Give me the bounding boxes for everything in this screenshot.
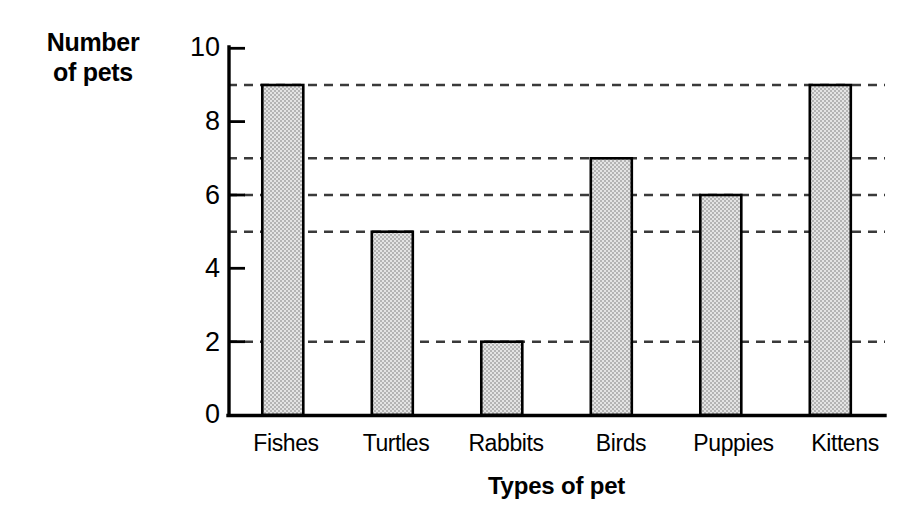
- y-tick-label-0: 0: [172, 401, 220, 428]
- x-category-label-puppies: Puppies: [676, 432, 791, 455]
- x-axis-title: Types of pet: [228, 472, 885, 500]
- bar-birds: [591, 158, 632, 415]
- chart-page: Number of pets: [0, 0, 909, 524]
- y-axis-ticks: [229, 48, 245, 341]
- x-category-label-rabbits: Rabbits: [451, 432, 561, 455]
- x-category-label-kittens: Kittens: [790, 432, 900, 455]
- y-tick-label-8: 8: [172, 108, 220, 135]
- y-tick-label-2: 2: [172, 329, 220, 356]
- y-tick-label-4: 4: [172, 255, 220, 282]
- x-category-label-turtles: Turtles: [341, 432, 451, 455]
- x-category-label-fishes: Fishes: [231, 432, 341, 455]
- bar-fishes: [262, 85, 303, 415]
- bar-kittens: [810, 85, 851, 415]
- bar-rabbits: [481, 342, 522, 415]
- x-category-label-birds: Birds: [566, 432, 676, 455]
- y-tick-label-10: 10: [172, 34, 220, 61]
- y-tick-label-6: 6: [172, 182, 220, 209]
- bars: [262, 85, 851, 415]
- bar-puppies: [700, 195, 741, 415]
- bar-turtles: [372, 232, 413, 415]
- gridlines: [228, 85, 885, 342]
